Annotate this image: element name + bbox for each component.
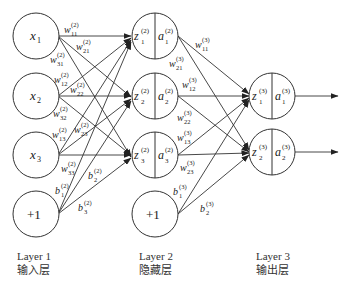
svg-text:1: 1 (61, 191, 64, 198)
svg-text:w: w (64, 24, 71, 35)
bias-label-b1-3: b 1 (3) (173, 183, 187, 199)
layer-3-subtitle: 输出层 (256, 263, 290, 277)
svg-text:w: w (74, 124, 81, 135)
weight-label-w12-2: w 12 (2) (54, 71, 69, 87)
svg-text:1: 1 (179, 192, 182, 199)
svg-text:(3): (3) (282, 143, 291, 151)
svg-text:w: w (177, 112, 184, 123)
svg-text:(3): (3) (202, 36, 210, 44)
svg-text:w: w (61, 163, 68, 174)
hidden-node-3: z 3 (2) a 3 (2) (132, 132, 178, 178)
weight-label-w11-2: w 11 (2) (64, 21, 79, 37)
layer-1-name: Layer 1 (17, 249, 51, 263)
svg-text:13: 13 (59, 135, 66, 142)
svg-text:(2): (2) (77, 81, 85, 89)
bias-label-b2-3: b 2 (3) (200, 200, 214, 216)
output-arrows (295, 96, 338, 152)
svg-text:z: z (133, 29, 139, 43)
layer-3-label: Layer 3 输出层 (256, 249, 290, 277)
svg-text:22: 22 (184, 118, 191, 125)
svg-text:(2): (2) (165, 146, 174, 154)
layer-2-label: Layer 2 隐藏层 (139, 249, 173, 277)
svg-text:22: 22 (77, 90, 84, 97)
hidden-bias-node: +1 (132, 191, 178, 237)
weight-label-w23-3: w 23 (3) (180, 159, 195, 175)
svg-text:(3): (3) (176, 55, 184, 63)
svg-text:2: 2 (94, 176, 97, 183)
svg-text:(2): (2) (68, 160, 76, 168)
svg-text:b: b (78, 202, 83, 213)
layer-2-subtitle: 隐藏层 (139, 263, 173, 277)
svg-text:1: 1 (259, 98, 263, 106)
weight-label-w12-3: w 12 (3) (182, 76, 197, 92)
layer-3-name: Layer 3 (256, 249, 290, 263)
output-layer: z 1 (3) a 1 (3) z 2 (3) a 2 (3) (249, 73, 295, 175)
svg-text:1: 1 (165, 38, 169, 46)
svg-text:(3): (3) (206, 200, 214, 208)
svg-text:2: 2 (141, 98, 145, 106)
svg-text:1: 1 (282, 98, 286, 106)
svg-text:2: 2 (165, 98, 169, 106)
layer-1-subtitle: 输入层 (17, 263, 51, 277)
svg-text:w: w (169, 58, 176, 69)
svg-text:(2): (2) (61, 182, 69, 190)
svg-text:(2): (2) (141, 87, 150, 95)
bias-label-b3-2: b 3 (2) (78, 199, 92, 215)
input-layer: x 1 x 2 x 3 +1 (13, 13, 59, 237)
weight-label-w22-3: w 22 (3) (177, 109, 192, 125)
svg-text:w: w (54, 74, 61, 85)
svg-text:(2): (2) (94, 167, 102, 175)
svg-text:x: x (29, 147, 36, 162)
weight-label-w33-2: w 33 (2) (61, 160, 76, 176)
bias-label-b1-2: b 1 (2) (55, 182, 69, 198)
svg-text:1: 1 (37, 36, 41, 45)
weight-label-w21-3: w 21 (3) (169, 55, 184, 71)
svg-text:(2): (2) (141, 146, 150, 154)
svg-text:3: 3 (141, 157, 145, 165)
svg-text:(2): (2) (141, 27, 150, 35)
weight-label-w31-2: w 31 (2) (50, 51, 65, 67)
hidden-node-2: z 2 (2) a 2 (2) (132, 73, 178, 119)
input-bias-node: +1 (13, 191, 59, 237)
svg-text:(3): (3) (184, 129, 192, 137)
bias-label-b2-2: b 2 (2) (88, 167, 102, 183)
svg-text:w: w (182, 79, 189, 90)
svg-text:w: w (195, 39, 202, 50)
layer-1-label: Layer 1 输入层 (17, 249, 51, 277)
svg-text:a: a (275, 145, 281, 159)
edges-layer2-to-layer3 (178, 36, 249, 214)
svg-text:11: 11 (202, 45, 208, 52)
svg-text:(2): (2) (60, 105, 68, 113)
svg-text:+1: +1 (27, 207, 41, 222)
svg-text:(3): (3) (184, 109, 192, 117)
svg-text:(3): (3) (259, 143, 268, 151)
svg-text:33: 33 (68, 169, 75, 176)
input-node-x1: x 1 (13, 13, 59, 59)
weight-label-w22-2: w 22 (2) (70, 81, 85, 97)
svg-text:w: w (53, 108, 60, 119)
svg-text:(2): (2) (84, 199, 92, 207)
svg-text:a: a (275, 89, 281, 103)
svg-text:3: 3 (165, 157, 169, 165)
svg-text:b: b (88, 170, 93, 181)
hidden-node-1: z 1 (2) a 1 (2) (132, 13, 178, 59)
svg-text:w: w (50, 54, 57, 65)
svg-text:2: 2 (206, 209, 209, 216)
svg-text:(2): (2) (57, 51, 65, 59)
svg-text:(2): (2) (61, 71, 69, 79)
svg-text:2: 2 (37, 96, 41, 105)
weight-label-w21-2: w 21 (2) (76, 38, 91, 54)
weight-label-w11-3: w 11 (3) (195, 36, 210, 52)
hidden-layer: z 1 (2) a 1 (2) z 2 (2) a 2 (2) z 3 (2) … (132, 13, 178, 237)
svg-text:z: z (251, 89, 257, 103)
svg-text:23: 23 (81, 130, 88, 137)
svg-text:(3): (3) (259, 87, 268, 95)
svg-text:12: 12 (189, 85, 196, 92)
svg-text:+1: +1 (146, 207, 160, 222)
weight-label-w13-2: w 13 (2) (52, 126, 67, 142)
svg-text:x: x (29, 28, 36, 43)
svg-text:b: b (55, 185, 60, 196)
svg-text:a: a (158, 89, 164, 103)
svg-text:b: b (200, 203, 205, 214)
svg-text:(2): (2) (83, 38, 91, 46)
